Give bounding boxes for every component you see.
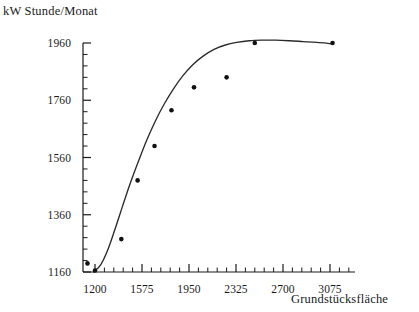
x-axis-tick-label: 3075: [318, 283, 341, 295]
x-axis-tick-label: 2325: [224, 283, 247, 295]
data-point: [152, 144, 157, 149]
data-point: [253, 41, 258, 46]
x-axis-tick-label: 2700: [271, 283, 294, 295]
data-point: [93, 268, 98, 273]
data-point: [224, 75, 229, 80]
data-point: [192, 85, 197, 90]
chart-container: kW Stunde/Monat Grundstücksfläche 116013…: [0, 0, 419, 312]
y-axis-tick-label: 1360: [0, 209, 71, 221]
data-point: [330, 41, 335, 46]
data-point: [169, 108, 174, 113]
fitted-curve: [94, 40, 331, 272]
x-axis-tick-label: 1575: [130, 283, 153, 295]
x-axis-tick-label: 1200: [83, 283, 106, 295]
data-point: [85, 261, 90, 266]
data-point: [119, 237, 124, 242]
y-axis-tick-label: 1160: [0, 266, 71, 278]
y-axis-tick-label: 1960: [0, 37, 71, 49]
y-axis-tick-label: 1560: [0, 152, 71, 164]
x-axis-tick-label: 1950: [177, 283, 200, 295]
data-point: [135, 178, 140, 183]
y-axis-tick-label: 1760: [0, 94, 71, 106]
